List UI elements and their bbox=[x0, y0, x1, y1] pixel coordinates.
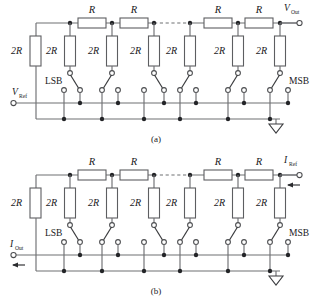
panel-a-switch-blade-6[interactable] bbox=[272, 75, 280, 88]
panel-a-vref-label: V bbox=[12, 87, 19, 97]
panel-a-switch-contact-6a[interactable] bbox=[268, 88, 273, 93]
panel-b-switch-contact-4b[interactable] bbox=[194, 240, 199, 245]
panel-a-switch-blade-4[interactable] bbox=[182, 75, 190, 88]
panel-a-switch-contact-3b[interactable] bbox=[162, 88, 167, 93]
panel-b-switch-contact-3a[interactable] bbox=[142, 240, 147, 245]
panel-b-switch-contact-5b[interactable] bbox=[242, 240, 247, 245]
panel-b-series-resistor-2 bbox=[120, 170, 148, 180]
panel-b-shunt-label-6: 2R bbox=[256, 197, 267, 208]
panel-b-shunt-resistor-6 bbox=[275, 188, 286, 218]
panel-a-switch-contact-3a[interactable] bbox=[142, 88, 147, 93]
panel-b-series-label-2: R bbox=[130, 156, 138, 167]
panel-a-switch-contact-4a[interactable] bbox=[178, 88, 183, 93]
panel-a-shunt-label-1: 2R bbox=[46, 45, 57, 56]
panel-a-switch-contact-5a[interactable] bbox=[226, 88, 231, 93]
panel-b-switch-contact-2a[interactable] bbox=[100, 240, 105, 245]
panel-b-iout-terminal[interactable] bbox=[11, 252, 16, 257]
panel-b-caption: (b) bbox=[151, 286, 162, 296]
panel-b-switch-pole-1[interactable] bbox=[68, 223, 73, 228]
panel-b-series-resistor-4 bbox=[245, 170, 273, 180]
panel-b-switch-blade-5[interactable] bbox=[230, 227, 238, 240]
panel-a-switch-blade-3[interactable] bbox=[155, 75, 163, 88]
panel-a-vref-node-5 bbox=[242, 101, 246, 105]
panel-a-gnd-node-1 bbox=[62, 117, 66, 121]
panel-b-switch-pole-6[interactable] bbox=[278, 223, 283, 228]
panel-b-switch-pole-5[interactable] bbox=[236, 223, 241, 228]
panel-b-msb-label: MSB bbox=[289, 228, 309, 238]
panel-a-vref-node-1 bbox=[78, 101, 82, 105]
panel-a-switch-pole-5[interactable] bbox=[236, 71, 241, 76]
panel-a-switch-blade-2[interactable] bbox=[104, 75, 112, 88]
panel-b-shunt-resistor-3 bbox=[149, 188, 160, 218]
panel-a-switch-contact-6b[interactable] bbox=[286, 88, 291, 93]
panel-b-switch-blade-4[interactable] bbox=[182, 227, 190, 240]
panel-a-switch-blade-5[interactable] bbox=[230, 75, 238, 88]
panel-a-switch-contact-2a[interactable] bbox=[100, 88, 105, 93]
panel-b-switch-contact-3b[interactable] bbox=[162, 240, 167, 245]
panel-a-switch-contact-2b[interactable] bbox=[116, 88, 121, 93]
panel-a-series-label-2: R bbox=[130, 4, 138, 15]
panel-b-switch-blade-3[interactable] bbox=[155, 227, 163, 240]
panel-b-series-label-3: R bbox=[214, 156, 222, 167]
panel-a-msb-label: MSB bbox=[289, 76, 309, 86]
panel-a-series-resistor-4 bbox=[245, 18, 273, 28]
panel-b-switch-pole-4[interactable] bbox=[188, 223, 193, 228]
panel-b-iref-label: I bbox=[283, 155, 288, 165]
panel-b-iref-subscript: Ref bbox=[289, 161, 297, 167]
panel-a-vref-node-4 bbox=[194, 101, 198, 105]
panel-a-vout-label: V bbox=[284, 3, 291, 13]
panel-b-switch-contact-1b[interactable] bbox=[78, 240, 83, 245]
panel-a-vref-node-2 bbox=[116, 101, 120, 105]
panel-a-gnd-node-3 bbox=[142, 117, 146, 121]
panel-b-switch-pole-3[interactable] bbox=[152, 223, 157, 228]
panel-b-iout-node-1 bbox=[78, 253, 82, 257]
panel-b-switch-contact-1a[interactable] bbox=[62, 240, 67, 245]
panel-a-vref-terminal[interactable] bbox=[11, 100, 16, 105]
panel-b-iout-arrow-head bbox=[12, 263, 18, 268]
panel-b-series-label-1: R bbox=[88, 156, 96, 167]
panel-a-shunt-label-2: 2R bbox=[88, 45, 99, 56]
panel-b-switch-contact-2b[interactable] bbox=[116, 240, 121, 245]
panel-b-switch-blade-2[interactable] bbox=[104, 227, 112, 240]
panel-b-switch-contact-4a[interactable] bbox=[178, 240, 183, 245]
panel-a-series-label-1: R bbox=[88, 4, 96, 15]
panel-a-gnd-node-2 bbox=[100, 117, 104, 121]
panel-a-switch-blade-1[interactable] bbox=[71, 75, 79, 88]
panel-b-switch-contact-5a[interactable] bbox=[226, 240, 231, 245]
panel-a-switch-pole-4[interactable] bbox=[188, 71, 193, 76]
panel-a-switch-contact-4b[interactable] bbox=[194, 88, 199, 93]
panel-a-switch-contact-1b[interactable] bbox=[78, 88, 83, 93]
panel-b-gnd-node-6 bbox=[268, 269, 272, 273]
panel-a: R R R R V Out 2R 2R bbox=[11, 3, 309, 144]
panel-b-iout-node-4 bbox=[194, 253, 198, 257]
panel-a-switch-pole-6[interactable] bbox=[278, 71, 283, 76]
panel-b-gnd-node-4 bbox=[178, 269, 182, 273]
panel-b-switch-pole-2[interactable] bbox=[110, 223, 115, 228]
panel-a-switch-pole-2[interactable] bbox=[110, 71, 115, 76]
panel-b-switch-blade-1[interactable] bbox=[71, 227, 79, 240]
panel-b-shunt-resistor-0 bbox=[30, 188, 41, 218]
panel-b-iref-terminal[interactable] bbox=[297, 172, 302, 177]
panel-a-vout-terminal[interactable] bbox=[297, 20, 302, 25]
panel-b-iout-node-3 bbox=[162, 253, 166, 257]
panel-b-switch-contact-6a[interactable] bbox=[268, 240, 273, 245]
panel-b-shunt-resistor-4 bbox=[185, 188, 196, 218]
panel-a-caption: (a) bbox=[151, 134, 161, 144]
panel-a-gnd-node-4 bbox=[178, 117, 182, 121]
panel-a-lsb-label: LSB bbox=[45, 76, 62, 86]
panel-a-series-label-4: R bbox=[255, 4, 263, 15]
panel-b-gnd-node-5 bbox=[226, 269, 230, 273]
panel-b-ground-icon bbox=[269, 276, 283, 285]
panel-b-switch-blade-6[interactable] bbox=[272, 227, 280, 240]
panel-b-series-resistor-1 bbox=[78, 170, 106, 180]
panel-a-switch-pole-1[interactable] bbox=[68, 71, 73, 76]
panel-a-shunt-resistor-5 bbox=[233, 36, 244, 66]
panel-a-switch-pole-3[interactable] bbox=[152, 71, 157, 76]
panel-a-shunt-resistor-4 bbox=[185, 36, 196, 66]
panel-b-gnd-node-3 bbox=[142, 269, 146, 273]
panel-a-switch-contact-5b[interactable] bbox=[242, 88, 247, 93]
panel-a-switch-contact-1a[interactable] bbox=[62, 88, 67, 93]
panel-a-series-resistor-1 bbox=[78, 18, 106, 28]
panel-a-gnd-node-5 bbox=[226, 117, 230, 121]
panel-b-switch-contact-6b[interactable] bbox=[286, 240, 291, 245]
